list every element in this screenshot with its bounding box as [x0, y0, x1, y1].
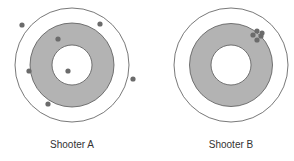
inner-circle: [52, 45, 92, 85]
shot-mark: [97, 21, 102, 26]
inner-circle: [211, 45, 251, 85]
shot-mark: [254, 37, 259, 42]
shot-mark: [130, 76, 135, 81]
shot-mark: [19, 22, 24, 27]
shot-mark: [65, 68, 70, 73]
shot-mark: [26, 68, 31, 73]
shot-mark: [55, 36, 60, 41]
target-shooter-a: [15, 8, 136, 122]
shot-mark: [250, 32, 255, 37]
targets-diagram: [0, 0, 294, 161]
shot-mark: [45, 101, 50, 106]
shot-mark: [259, 30, 264, 35]
shooter-a-label: Shooter A: [22, 139, 122, 150]
shot-mark: [254, 28, 259, 33]
target-shooter-b: [174, 8, 288, 122]
shooter-b-label: Shooter B: [181, 139, 281, 150]
